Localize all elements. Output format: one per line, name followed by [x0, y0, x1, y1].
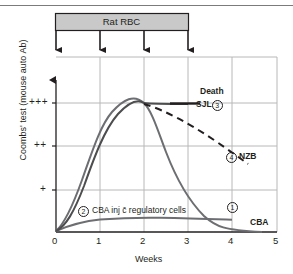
annotation-nzb: 4NZB: [226, 152, 256, 163]
injection-arrows: [56, 31, 188, 50]
annotation-cba-regulatory-label: CBA inj c̄ regulatory cells: [92, 205, 186, 215]
annotation-sjl: SJL3: [196, 100, 223, 111]
annotation-curve-one: 1: [227, 196, 238, 213]
x-tick-label-4: 4: [228, 236, 233, 246]
annotation-cba-regulatory-marker: 2: [78, 206, 89, 217]
annotation-cba-regulatory: 2CBA inj c̄ regulatory cells: [78, 206, 186, 217]
x-tick-label-1: 1: [96, 236, 101, 246]
y-tick-label-plus-plus-plus: +++: [29, 97, 48, 107]
annotation-cba: CBA: [250, 218, 268, 227]
annotation-death: Death: [200, 87, 224, 96]
annotation-nzb-label: NZB: [239, 151, 256, 161]
rat-rbc-label: Rat RBC: [55, 17, 188, 27]
chart-canvas: [0, 0, 293, 274]
x-tick-label-3: 3: [184, 236, 189, 246]
annotation-sjl-marker: 3: [212, 100, 223, 111]
x-axis-label: Weeks: [135, 255, 162, 264]
annotation-sjl-label: SJL: [196, 99, 212, 109]
y-axis-label: Coombs' test (mouse auto Ab): [18, 25, 28, 175]
annotation-curve-one-marker: 1: [227, 202, 238, 213]
x-tick-label-0: 0: [52, 236, 57, 246]
chart-figure: Rat RBC Coombs' test (mouse auto Ab) Wee…: [0, 0, 293, 274]
y-tick-label-plus: +: [40, 184, 46, 194]
y-tick-label-plus-plus: ++: [34, 140, 47, 150]
x-tick-label-2: 2: [140, 236, 145, 246]
x-tick-label-5: 5: [273, 236, 278, 246]
annotation-nzb-marker: 4: [226, 152, 237, 163]
